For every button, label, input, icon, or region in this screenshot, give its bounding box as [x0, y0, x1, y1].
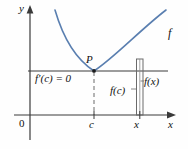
- x-axis-label: x: [168, 119, 173, 130]
- x-tick-label-c: c: [89, 119, 94, 130]
- x-tick-label-x: x: [134, 119, 139, 130]
- f-of-x-label: f(x): [144, 76, 159, 87]
- y-axis-label: y: [19, 3, 24, 14]
- origin-label: 0: [19, 118, 25, 129]
- derivative-annotation: f′(c) = 0: [35, 73, 71, 84]
- function-curve-label: f: [168, 27, 171, 39]
- y-axis: [27, 5, 34, 140]
- function-curve: [55, 10, 166, 71]
- math-figure: y f P f′(c) = 0 f(x) f(c) 0 c x x: [0, 0, 188, 149]
- f-of-c-label: f(c): [110, 85, 125, 96]
- point-p-label: P: [86, 54, 93, 65]
- x-axis: [14, 112, 176, 119]
- figure-canvas: [0, 0, 188, 149]
